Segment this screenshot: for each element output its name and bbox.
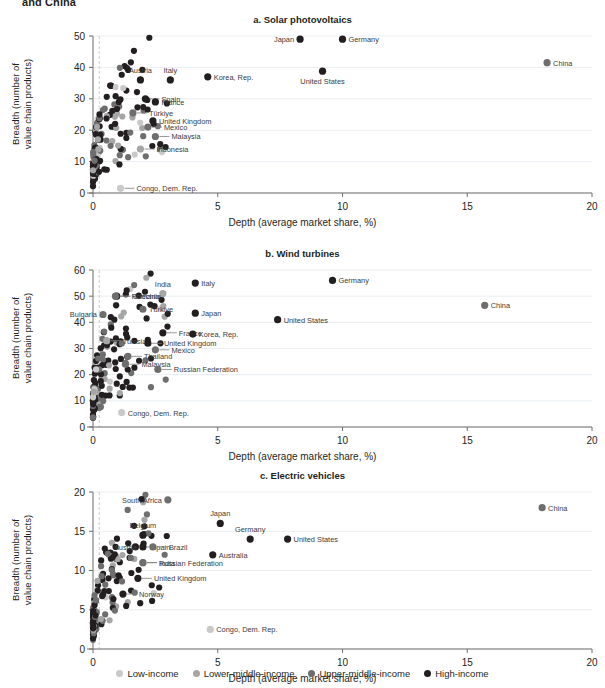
data-point[interactable] xyxy=(90,608,96,614)
data-point[interactable] xyxy=(124,353,131,360)
data-point[interactable] xyxy=(114,536,120,542)
data-point[interactable] xyxy=(90,620,96,626)
legend-item-upper-middle-income[interactable]: Upper-middle-income xyxy=(308,668,410,679)
data-point[interactable] xyxy=(127,130,133,136)
data-point[interactable] xyxy=(100,591,106,597)
data-point[interactable] xyxy=(106,362,112,368)
data-point[interactable] xyxy=(112,359,118,365)
data-point[interactable] xyxy=(94,578,100,584)
data-point[interactable] xyxy=(117,373,123,379)
data-point[interactable] xyxy=(339,36,346,43)
data-point[interactable] xyxy=(109,108,115,114)
data-point[interactable] xyxy=(137,76,144,83)
data-point[interactable] xyxy=(137,600,143,606)
labeled-data-point[interactable]: China xyxy=(539,504,569,513)
data-point[interactable] xyxy=(543,59,550,66)
data-point[interactable] xyxy=(112,84,118,90)
data-point[interactable] xyxy=(101,166,107,172)
data-point[interactable] xyxy=(99,573,105,579)
data-point[interactable] xyxy=(116,99,122,105)
data-point[interactable] xyxy=(107,82,113,88)
data-point[interactable] xyxy=(111,346,117,352)
labeled-data-point[interactable]: United States xyxy=(274,316,328,325)
data-point[interactable] xyxy=(139,559,146,566)
data-point[interactable] xyxy=(125,154,131,160)
data-point[interactable] xyxy=(106,617,112,623)
data-point[interactable] xyxy=(154,366,161,373)
data-point[interactable] xyxy=(146,35,152,41)
data-point[interactable] xyxy=(144,315,150,321)
data-point[interactable] xyxy=(108,143,114,149)
data-point[interactable] xyxy=(217,520,224,527)
legend-item-lower-middle-income[interactable]: Lower-middle-income xyxy=(193,668,295,679)
data-point[interactable] xyxy=(115,572,121,578)
data-point[interactable] xyxy=(164,323,170,329)
labeled-data-point[interactable]: France xyxy=(152,98,185,107)
data-point[interactable] xyxy=(117,185,124,192)
data-point[interactable] xyxy=(98,616,104,622)
data-point[interactable] xyxy=(103,115,109,121)
data-point[interactable] xyxy=(539,504,546,511)
data-point[interactable] xyxy=(192,279,199,286)
labeled-data-point[interactable]: South Africa xyxy=(122,496,171,505)
data-point[interactable] xyxy=(113,302,119,308)
data-point[interactable] xyxy=(149,117,156,124)
labeled-data-point[interactable]: Korea, Rep. xyxy=(204,73,253,82)
data-point[interactable] xyxy=(119,578,125,584)
data-point[interactable] xyxy=(144,340,151,347)
data-point[interactable] xyxy=(119,590,126,597)
labeled-data-point[interactable]: China xyxy=(543,59,573,68)
data-point[interactable] xyxy=(91,592,97,598)
data-point[interactable] xyxy=(114,381,120,387)
labeled-data-point[interactable]: Congo, Dem. Rep. xyxy=(207,625,278,634)
data-point[interactable] xyxy=(90,625,96,631)
data-point[interactable] xyxy=(134,89,140,95)
labeled-data-point[interactable]: Congo, Dem. Rep. xyxy=(118,409,189,418)
data-point[interactable] xyxy=(102,106,108,112)
data-point[interactable] xyxy=(149,143,155,149)
data-point[interactable] xyxy=(139,306,146,313)
data-point[interactable] xyxy=(163,376,169,382)
labeled-data-point[interactable]: Türkiye xyxy=(139,305,173,314)
data-point[interactable] xyxy=(98,563,104,569)
data-point[interactable] xyxy=(98,378,104,384)
data-point[interactable] xyxy=(103,137,109,143)
data-point[interactable] xyxy=(115,142,121,148)
data-point[interactable] xyxy=(140,104,146,110)
data-point[interactable] xyxy=(142,95,149,102)
data-point[interactable] xyxy=(90,414,96,420)
labeled-data-point[interactable]: Austria xyxy=(114,543,147,552)
data-point[interactable] xyxy=(90,167,96,173)
data-point[interactable] xyxy=(110,596,116,602)
data-point[interactable] xyxy=(119,113,125,119)
data-point[interactable] xyxy=(91,377,97,383)
labeled-data-point[interactable]: Norway xyxy=(119,590,164,599)
data-point[interactable] xyxy=(117,65,123,71)
data-point[interactable] xyxy=(98,557,104,563)
data-point[interactable] xyxy=(129,109,136,116)
data-point[interactable] xyxy=(319,68,326,75)
data-point[interactable] xyxy=(284,536,291,543)
data-point[interactable] xyxy=(189,331,196,338)
data-point[interactable] xyxy=(105,551,111,557)
data-point[interactable] xyxy=(117,152,123,158)
data-point[interactable] xyxy=(117,390,123,396)
data-point[interactable] xyxy=(118,131,124,137)
data-point[interactable] xyxy=(128,570,134,576)
data-point[interactable] xyxy=(119,72,125,78)
data-point[interactable] xyxy=(164,533,170,539)
data-point[interactable] xyxy=(144,123,151,130)
data-point[interactable] xyxy=(99,392,105,398)
data-point[interactable] xyxy=(103,337,110,344)
data-point[interactable] xyxy=(143,153,149,159)
labeled-data-point[interactable]: Germany xyxy=(329,276,369,285)
data-point[interactable] xyxy=(164,496,171,503)
data-point[interactable] xyxy=(128,555,134,561)
data-point[interactable] xyxy=(93,366,99,372)
data-point[interactable] xyxy=(329,277,336,284)
data-point[interactable] xyxy=(132,590,138,596)
data-point[interactable] xyxy=(91,389,97,395)
labeled-data-point[interactable]: Germany xyxy=(235,525,266,543)
data-point[interactable] xyxy=(101,328,107,334)
data-point[interactable] xyxy=(139,543,146,550)
